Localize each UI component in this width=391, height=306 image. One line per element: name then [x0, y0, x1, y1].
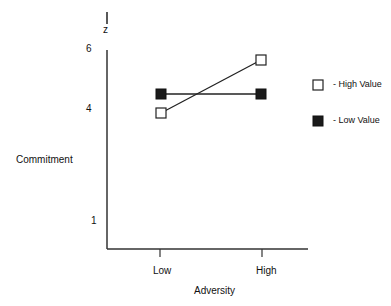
- axis-top-marker: z: [103, 24, 108, 35]
- chart-canvas: [0, 0, 391, 306]
- x-axis-label: Adversity: [194, 285, 235, 296]
- legend-label-high-value: - High Value: [333, 79, 382, 89]
- marker-low-value-high: [256, 89, 266, 99]
- x-tick-label-low: Low: [153, 265, 171, 276]
- y-tick-1: 1: [91, 215, 97, 226]
- x-tick-label-high: High: [256, 265, 277, 276]
- legend-hollow-square-icon: [313, 80, 323, 90]
- y-axis-label: Commitment: [16, 154, 73, 165]
- marker-high-value-high: [256, 55, 266, 65]
- marker-high-value-low: [156, 108, 166, 118]
- y-tick-6: 6: [86, 43, 92, 54]
- series-high-value-line: [161, 60, 261, 113]
- marker-low-value-low: [156, 89, 166, 99]
- legend-label-low-value: - Low Value: [333, 115, 380, 125]
- y-tick-4: 4: [86, 103, 92, 114]
- legend-filled-square-icon: [313, 116, 323, 126]
